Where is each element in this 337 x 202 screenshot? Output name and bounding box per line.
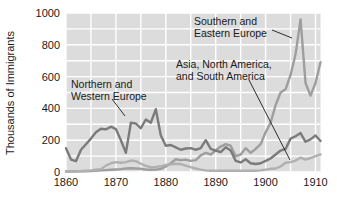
y-tick-label: 400 (42, 102, 60, 114)
annotation-label-line2: Eastern Europe (194, 27, 267, 39)
y-tick-label: 200 (42, 134, 60, 146)
annotation-label-line2: Western Europe (71, 90, 147, 102)
x-tick-label: 1870 (104, 176, 128, 188)
y-tick-label: 1000 (36, 7, 60, 19)
y-tick-label: 600 (42, 71, 60, 83)
immigration-line-chart: 186018701880189019001910 020040060080010… (0, 0, 337, 202)
x-tick-label: 1910 (303, 176, 327, 188)
y-axis-title: Thousands of Immigrants (4, 30, 16, 155)
annotation-label-line1: Asia, North America, (176, 58, 272, 70)
annotation-label-line1: Northern and (71, 78, 132, 90)
y-axis-title-label: Thousands of Immigrants (4, 30, 16, 155)
y-tick-label: 800 (42, 39, 60, 51)
x-tick-label: 1880 (154, 176, 178, 188)
chart-canvas: 186018701880189019001910 020040060080010… (0, 0, 337, 202)
x-tick-label: 1890 (203, 176, 227, 188)
x-tick-label: 1900 (253, 176, 277, 188)
annotation-label-line1: Southern and (194, 15, 257, 27)
annotation-label-line2: and South America (176, 70, 265, 82)
y-tick-label: 0 (54, 166, 60, 178)
